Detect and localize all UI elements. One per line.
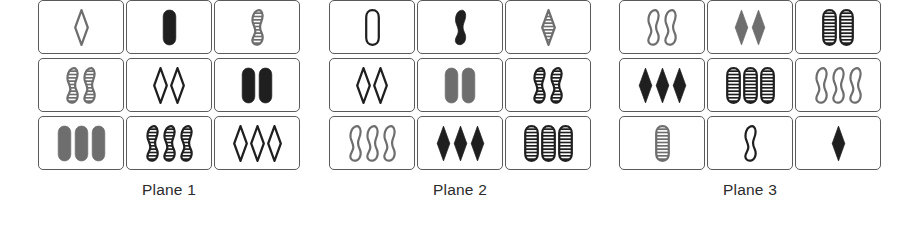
diamond-solid-icon bbox=[655, 67, 670, 104]
pill-striped-icon bbox=[541, 125, 556, 162]
pill-solid-icon bbox=[91, 125, 106, 162]
plane-gap-2-3 bbox=[591, 0, 619, 1]
pill-solid-icon bbox=[162, 9, 177, 46]
card[interactable] bbox=[214, 58, 300, 112]
plane-3-label: Plane 3 bbox=[723, 182, 777, 198]
plane-3: Plane 3 bbox=[619, 0, 881, 198]
card[interactable] bbox=[417, 116, 503, 170]
squiggle-striped-icon bbox=[162, 125, 177, 162]
card[interactable] bbox=[417, 58, 503, 112]
card[interactable] bbox=[795, 116, 881, 170]
diamond-solid-icon bbox=[453, 125, 468, 162]
squiggle-open-icon bbox=[743, 125, 758, 162]
plane-1-label: Plane 1 bbox=[142, 182, 196, 198]
pill-solid-icon bbox=[241, 67, 256, 104]
diamond-open-icon bbox=[153, 67, 168, 104]
pill-solid-icon bbox=[258, 67, 273, 104]
squiggle-striped-icon bbox=[532, 67, 547, 104]
card[interactable] bbox=[505, 58, 591, 112]
pill-striped-icon bbox=[839, 9, 854, 46]
squiggle-open-icon bbox=[663, 9, 678, 46]
squiggle-open-icon bbox=[382, 125, 397, 162]
squiggle-solid-icon bbox=[453, 9, 468, 46]
squiggle-open-icon bbox=[365, 125, 380, 162]
card[interactable] bbox=[329, 58, 415, 112]
diamond-open-icon bbox=[250, 125, 265, 162]
pill-solid-icon bbox=[74, 125, 89, 162]
card[interactable] bbox=[619, 58, 705, 112]
card[interactable] bbox=[619, 116, 705, 170]
card[interactable] bbox=[38, 58, 124, 112]
squiggle-striped-icon bbox=[65, 67, 80, 104]
pill-solid-icon bbox=[444, 67, 459, 104]
left-margin-spacer bbox=[0, 0, 38, 1]
diamond-solid-icon bbox=[831, 125, 846, 162]
pill-striped-icon bbox=[743, 67, 758, 104]
diamond-solid-icon bbox=[470, 125, 485, 162]
card[interactable] bbox=[795, 0, 881, 54]
plane-gap-1-2 bbox=[300, 0, 329, 1]
diamond-open-icon bbox=[74, 9, 89, 46]
squiggle-striped-icon bbox=[145, 125, 160, 162]
pill-striped-icon bbox=[558, 125, 573, 162]
card[interactable] bbox=[329, 116, 415, 170]
set-card-planes-figure: Plane 1 Plane 2 Plane 3 bbox=[0, 0, 904, 229]
squiggle-open-icon bbox=[646, 9, 661, 46]
squiggle-open-icon bbox=[814, 67, 829, 104]
diamond-solid-icon bbox=[638, 67, 653, 104]
diamond-solid-icon bbox=[734, 9, 749, 46]
plane-2-card-grid bbox=[329, 0, 591, 170]
card[interactable] bbox=[126, 0, 212, 54]
diamond-solid-icon bbox=[751, 9, 766, 46]
pill-striped-icon bbox=[655, 125, 670, 162]
diamond-open-icon bbox=[233, 125, 248, 162]
diamond-open-icon bbox=[356, 67, 371, 104]
plane-2-label: Plane 2 bbox=[433, 182, 487, 198]
pill-striped-icon bbox=[822, 9, 837, 46]
plane-1-card-grid bbox=[38, 0, 300, 170]
card[interactable] bbox=[38, 0, 124, 54]
diamond-solid-icon bbox=[436, 125, 451, 162]
diamond-open-icon bbox=[170, 67, 185, 104]
plane-1: Plane 1 bbox=[38, 0, 300, 198]
diamond-open-icon bbox=[267, 125, 282, 162]
squiggle-striped-icon bbox=[82, 67, 97, 104]
card[interactable] bbox=[214, 116, 300, 170]
card[interactable] bbox=[126, 116, 212, 170]
squiggle-striped-icon bbox=[179, 125, 194, 162]
card[interactable] bbox=[619, 0, 705, 54]
squiggle-striped-icon bbox=[250, 9, 265, 46]
card[interactable] bbox=[329, 0, 415, 54]
pill-striped-icon bbox=[726, 67, 741, 104]
card[interactable] bbox=[707, 58, 793, 112]
squiggle-open-icon bbox=[831, 67, 846, 104]
squiggle-striped-icon bbox=[549, 67, 564, 104]
card[interactable] bbox=[214, 0, 300, 54]
squiggle-open-icon bbox=[348, 125, 363, 162]
squiggle-open-icon bbox=[848, 67, 863, 104]
card[interactable] bbox=[505, 116, 591, 170]
card[interactable] bbox=[505, 0, 591, 54]
pill-striped-icon bbox=[760, 67, 775, 104]
plane-3-card-grid bbox=[619, 0, 881, 170]
diamond-solid-icon bbox=[672, 67, 687, 104]
pill-solid-icon bbox=[461, 67, 476, 104]
diamond-striped-icon bbox=[541, 9, 556, 46]
pill-solid-icon bbox=[57, 125, 72, 162]
card[interactable] bbox=[38, 116, 124, 170]
card[interactable] bbox=[795, 58, 881, 112]
pill-open-icon bbox=[365, 9, 380, 46]
card[interactable] bbox=[707, 116, 793, 170]
plane-2: Plane 2 bbox=[329, 0, 591, 198]
diamond-open-icon bbox=[373, 67, 388, 104]
card[interactable] bbox=[707, 0, 793, 54]
card[interactable] bbox=[126, 58, 212, 112]
card[interactable] bbox=[417, 0, 503, 54]
pill-striped-icon bbox=[524, 125, 539, 162]
